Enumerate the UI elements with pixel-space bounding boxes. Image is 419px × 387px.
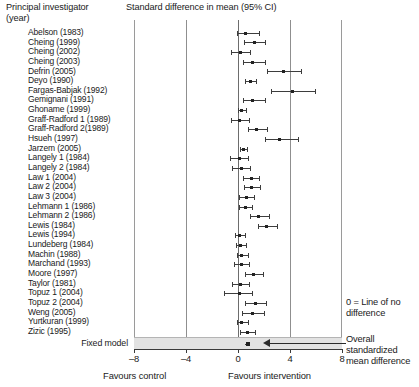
ci-cap-high: [252, 205, 253, 210]
effect-estimate-marker: [239, 51, 242, 54]
ci-cap-low: [239, 195, 240, 200]
ci-cap-high: [247, 147, 248, 152]
ci-cap-low: [245, 272, 246, 277]
effect-estimate-marker: [242, 148, 245, 151]
gridline-minus4: [186, 20, 187, 350]
ci-cap-low: [248, 127, 249, 132]
ci-cap-high: [277, 224, 278, 229]
x-axis-tick-label: –4: [173, 353, 199, 364]
ci-cap-low: [250, 214, 251, 219]
ci-cap-high: [252, 291, 253, 296]
overall-leader-line: [268, 343, 346, 344]
ci-cap-high: [250, 166, 251, 171]
effect-estimate-marker: [244, 32, 247, 35]
ci-cap-high: [255, 330, 256, 335]
ci-cap-low: [244, 185, 245, 190]
ci-cap-high: [245, 233, 246, 238]
summary-effect-marker: [246, 342, 250, 346]
ci-cap-low: [245, 79, 246, 84]
ci-cap-high: [266, 301, 267, 306]
ci-cap-high: [254, 195, 255, 200]
zero-reference-line: [238, 20, 239, 350]
ci-cap-high: [249, 282, 250, 287]
ci-cap-high: [248, 320, 249, 325]
ci-cap-high: [259, 176, 260, 181]
effect-estimate-marker: [240, 321, 243, 324]
effect-estimate-marker: [253, 41, 256, 44]
gridline-plus4: [290, 20, 291, 350]
study-label-column: Abelson (1983)Cheing (1999)Cheing (2002)…: [0, 28, 132, 337]
effect-estimate-marker: [265, 225, 268, 228]
effect-estimate-marker: [238, 119, 241, 122]
ci-cap-low: [243, 176, 244, 181]
x-axis-tick-label: 4: [277, 353, 303, 364]
ci-cap-high: [301, 69, 302, 74]
ci-cap-low: [232, 166, 233, 171]
effect-estimate-marker: [250, 177, 253, 180]
effect-estimate-marker: [255, 128, 258, 131]
ci-cap-high: [269, 214, 270, 219]
fixed-model-label: Fixed model: [0, 338, 128, 348]
ci-cap-low: [243, 60, 244, 65]
effect-estimate-marker: [282, 70, 285, 73]
confidence-interval-line: [265, 139, 298, 140]
ci-cap-low: [236, 243, 237, 248]
ci-cap-high: [298, 137, 299, 142]
ci-cap-high: [248, 156, 249, 161]
ci-cap-high: [264, 311, 265, 316]
ci-cap-high: [250, 50, 251, 55]
effect-estimate-marker: [251, 312, 254, 315]
effect-estimate-marker: [240, 109, 243, 112]
ci-cap-low: [235, 233, 236, 238]
overall-leader-arrow-icon: [263, 339, 270, 347]
overall-effect-annotation: Overall standardized mean difference: [346, 334, 419, 368]
ci-cap-high: [248, 253, 249, 258]
effect-estimate-marker: [252, 273, 255, 276]
effect-estimate-marker: [238, 157, 241, 160]
ci-cap-low: [234, 262, 235, 267]
ci-cap-low: [237, 31, 238, 36]
ci-cap-low: [240, 330, 241, 335]
ci-cap-low: [231, 118, 232, 123]
ci-cap-low: [271, 89, 272, 94]
study-column-header: Principal investigator (year): [6, 2, 124, 24]
effect-estimate-marker: [278, 138, 281, 141]
ci-cap-low: [245, 301, 246, 306]
effect-estimate-marker: [240, 263, 243, 266]
ci-cap-low: [224, 291, 225, 296]
effect-estimate-marker: [246, 331, 249, 334]
forest-plot-figure: Principal investigator (year) Standard d…: [0, 0, 419, 387]
ci-cap-high: [267, 127, 268, 132]
ci-cap-low: [230, 156, 231, 161]
ci-cap-high: [315, 89, 316, 94]
ci-cap-low: [237, 253, 238, 258]
effect-estimate-marker: [251, 99, 254, 102]
plot-column-header: Standard difference in mean (95% CI): [126, 2, 276, 13]
effect-estimate-marker: [240, 254, 243, 257]
ci-cap-high: [265, 40, 266, 45]
ci-cap-low: [258, 224, 259, 229]
ci-cap-low: [267, 69, 268, 74]
ci-cap-high: [249, 118, 250, 123]
ci-cap-low: [237, 320, 238, 325]
ci-cap-high: [256, 79, 257, 84]
effect-estimate-marker: [238, 234, 241, 237]
effect-estimate-marker: [251, 61, 254, 64]
ci-cap-low: [242, 311, 243, 316]
ci-cap-high: [265, 98, 266, 103]
effect-estimate-marker: [240, 167, 243, 170]
ci-cap-low: [244, 40, 245, 45]
confidence-interval-line: [237, 33, 258, 34]
effect-estimate-marker: [249, 80, 252, 83]
plot-area: [134, 20, 342, 350]
effect-estimate-marker: [238, 292, 241, 295]
ci-cap-high: [259, 31, 260, 36]
effect-estimate-marker: [245, 196, 248, 199]
effect-estimate-marker: [239, 244, 242, 247]
ci-cap-high: [246, 108, 247, 113]
ci-cap-high: [249, 262, 250, 267]
favours-control-label: Favours control: [103, 370, 166, 381]
ci-cap-low: [239, 205, 240, 210]
plot-left-border: [134, 20, 135, 350]
effect-estimate-marker: [254, 302, 257, 305]
